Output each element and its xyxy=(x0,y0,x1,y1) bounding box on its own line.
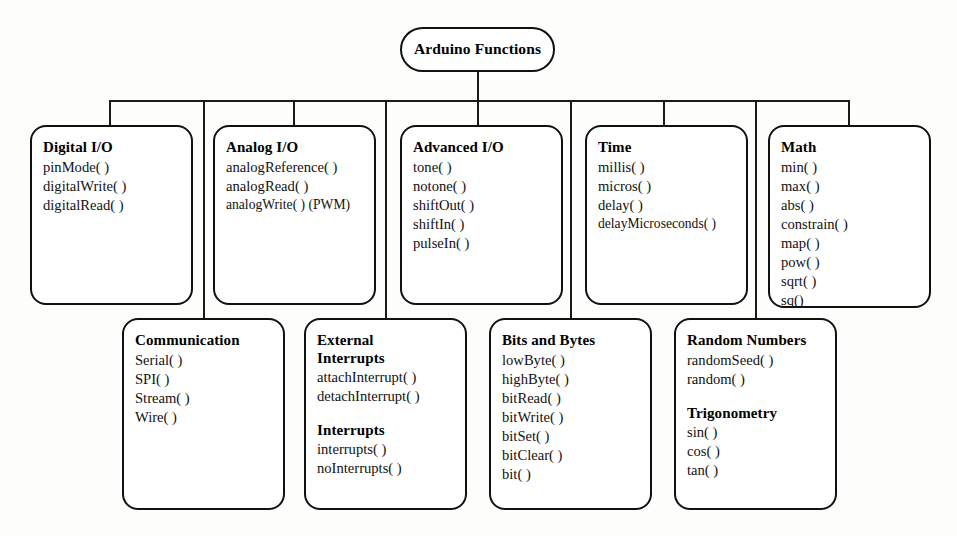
function-item: digitalRead( ) xyxy=(43,196,191,215)
function-item: SPI( ) xyxy=(135,370,283,389)
node-analog-io[interactable]: Analog I/O analogReference( ) analogRead… xyxy=(213,125,376,305)
section-title: Trigonometry xyxy=(687,404,835,424)
section-spacer xyxy=(317,406,465,421)
node-communication[interactable]: Communication Serial( ) SPI( ) Stream( )… xyxy=(122,318,285,510)
connector-bus xyxy=(109,100,850,102)
section-title: External xyxy=(317,331,465,349)
connector-drop-advanced-io xyxy=(477,100,479,125)
node-external-interrupts[interactable]: External Interrupts attachInterrupt( ) d… xyxy=(304,318,467,510)
function-item: pinMode( ) xyxy=(43,158,191,177)
function-item: min( ) xyxy=(781,158,929,177)
section-spacer xyxy=(687,389,835,404)
connector-drop-external-interrupts xyxy=(385,100,387,318)
function-item: attachInterrupt( ) xyxy=(317,368,465,387)
node-digital-io[interactable]: Digital I/O pinMode( ) digitalWrite( ) d… xyxy=(30,125,193,305)
function-item: sqrt( ) xyxy=(781,272,929,291)
node-math[interactable]: Math min( ) max( ) abs( ) constrain( ) m… xyxy=(768,125,931,308)
section-title: Random Numbers xyxy=(687,331,835,351)
function-item: bit( ) xyxy=(502,465,650,484)
function-item: sq() xyxy=(781,291,929,308)
section-title-line2: Interrupts xyxy=(317,349,465,367)
function-item: Stream( ) xyxy=(135,389,283,408)
function-item: sin( ) xyxy=(687,423,835,442)
section-title: Bits and Bytes xyxy=(502,331,650,351)
function-item: delayMicroseconds( ) xyxy=(598,215,746,233)
function-item: abs( ) xyxy=(781,196,929,215)
function-item: Serial( ) xyxy=(135,351,283,370)
function-item: max( ) xyxy=(781,177,929,196)
function-item: shiftIn( ) xyxy=(413,215,561,234)
function-item: analogRead( ) xyxy=(226,177,374,196)
function-item: bitSet( ) xyxy=(502,427,650,446)
connector-drop-analog-io xyxy=(293,100,295,125)
section-title: Advanced I/O xyxy=(413,138,561,158)
function-item: bitWrite( ) xyxy=(502,408,650,427)
section-title: Interrupts xyxy=(317,421,465,441)
function-item: analogReference( ) xyxy=(226,158,374,177)
function-item: highByte( ) xyxy=(502,370,650,389)
function-item: bitClear( ) xyxy=(502,446,650,465)
function-item: pulseIn( ) xyxy=(413,234,561,253)
function-item: noInterrupts( ) xyxy=(317,459,465,478)
node-bits-and-bytes[interactable]: Bits and Bytes lowByte( ) highByte( ) bi… xyxy=(489,318,652,510)
connector-drop-math xyxy=(848,100,850,125)
node-time[interactable]: Time millis( ) micros( ) delay( ) delayM… xyxy=(585,125,748,305)
function-item: analogWrite( ) (PWM) xyxy=(226,196,374,214)
diagram-canvas: Arduino Functions Digital I/O pinMode( )… xyxy=(0,0,957,536)
function-item: interrupts( ) xyxy=(317,440,465,459)
function-item: millis( ) xyxy=(598,158,746,177)
connector-drop-random-trig xyxy=(755,100,757,318)
function-item: constrain( ) xyxy=(781,215,929,234)
function-item: random( ) xyxy=(687,370,835,389)
function-item: digitalWrite( ) xyxy=(43,177,191,196)
function-item: notone( ) xyxy=(413,177,561,196)
function-item: detachInterrupt( ) xyxy=(317,387,465,406)
section-title: Analog I/O xyxy=(226,138,374,158)
function-item: Wire( ) xyxy=(135,408,283,427)
section-title: Math xyxy=(781,138,929,158)
node-title: Arduino Functions xyxy=(414,39,541,59)
connector-drop-communication xyxy=(203,100,205,318)
function-item: tan( ) xyxy=(687,461,835,480)
node-random-numbers-trigonometry[interactable]: Random Numbers randomSeed( ) random( ) T… xyxy=(674,318,837,510)
connector-drop-bits-and-bytes xyxy=(570,100,572,318)
function-item: delay( ) xyxy=(598,196,746,215)
function-item: randomSeed( ) xyxy=(687,351,835,370)
connector-drop-digital-io xyxy=(109,100,111,125)
section-title: Communication xyxy=(135,331,283,351)
section-title: Digital I/O xyxy=(43,138,191,158)
function-item: pow( ) xyxy=(781,253,929,272)
function-item: cos( ) xyxy=(687,442,835,461)
function-item: tone( ) xyxy=(413,158,561,177)
connector-root-stem xyxy=(477,72,479,102)
function-item: shiftOut( ) xyxy=(413,196,561,215)
node-arduino-functions[interactable]: Arduino Functions xyxy=(400,27,555,72)
function-item: map( ) xyxy=(781,234,929,253)
function-item: micros( ) xyxy=(598,177,746,196)
function-item: bitRead( ) xyxy=(502,389,650,408)
function-item: lowByte( ) xyxy=(502,351,650,370)
connector-drop-time xyxy=(663,100,665,125)
node-advanced-io[interactable]: Advanced I/O tone( ) notone( ) shiftOut(… xyxy=(400,125,563,305)
section-title: Time xyxy=(598,138,746,158)
